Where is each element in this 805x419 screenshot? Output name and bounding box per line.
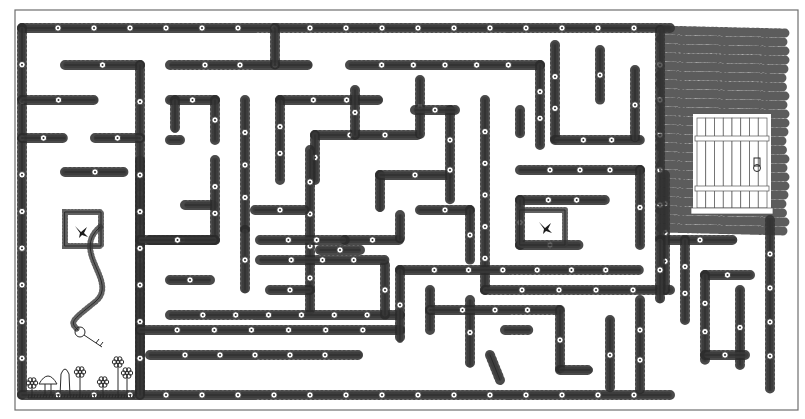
vine-wall xyxy=(637,300,643,390)
vine-wall xyxy=(260,257,385,263)
vine-wall xyxy=(255,207,305,213)
vine-wall xyxy=(260,237,345,243)
vine-wall xyxy=(682,240,688,320)
door-plank xyxy=(732,118,741,208)
vine-wall xyxy=(212,100,218,140)
vine-wall xyxy=(397,270,403,340)
vine-wall xyxy=(95,135,140,141)
goal-box xyxy=(520,210,565,245)
vine-wall xyxy=(415,107,455,113)
vine-wall xyxy=(537,65,543,145)
vine-wall xyxy=(520,167,640,173)
vine-wall xyxy=(767,220,773,390)
vine-wall xyxy=(382,265,388,315)
door-plank xyxy=(706,118,715,208)
vine-wall xyxy=(350,62,540,68)
vine-wall xyxy=(557,310,563,370)
door-step xyxy=(691,208,773,214)
vine-wall xyxy=(140,327,400,333)
vine-wall xyxy=(705,272,750,278)
door-plank xyxy=(723,118,732,208)
vine-wall xyxy=(637,170,643,245)
maze-illustration: Flower Vine Maze xyxy=(0,0,805,419)
vine-wall xyxy=(430,307,560,313)
vine-wall xyxy=(65,62,140,68)
vine-wall xyxy=(555,137,640,143)
vine-wall xyxy=(552,45,558,140)
vine-wall xyxy=(400,267,640,273)
vine-wall xyxy=(467,210,473,260)
door-plank xyxy=(741,118,750,208)
vine-wall xyxy=(665,237,735,243)
vine-wall xyxy=(420,207,470,213)
vine-wall xyxy=(315,132,420,138)
vine-wall xyxy=(482,100,488,290)
door-plank xyxy=(697,118,706,208)
bird-icon xyxy=(539,222,552,234)
vine-wall xyxy=(447,110,453,200)
hanging-vine xyxy=(73,227,102,330)
vine-wall xyxy=(607,320,613,390)
vine-wall xyxy=(242,100,248,230)
vine-wall xyxy=(597,50,603,100)
vine-wall xyxy=(170,312,400,318)
door-brace xyxy=(695,186,769,191)
vine-wall xyxy=(490,355,500,380)
vine-wall xyxy=(280,97,380,103)
vine-wall xyxy=(520,197,605,203)
exit-door[interactable] xyxy=(691,114,773,214)
vine-wall xyxy=(65,169,125,175)
bird-icon xyxy=(75,226,88,238)
vine-wall xyxy=(22,135,65,141)
vine-wall xyxy=(19,28,25,395)
vine-wall xyxy=(485,287,670,293)
vine-wall xyxy=(242,230,248,290)
vine-wall xyxy=(352,90,358,135)
vine-wall xyxy=(380,172,450,178)
door-plank xyxy=(715,118,724,208)
door-brace xyxy=(695,136,769,141)
vine-wall xyxy=(702,275,708,360)
vine-wall xyxy=(705,352,745,358)
vine-wall xyxy=(345,237,400,243)
vine-wall xyxy=(270,287,310,293)
vine-wall xyxy=(277,100,283,180)
vine-wall xyxy=(22,25,670,31)
maze-canvas xyxy=(0,0,805,419)
vine-wall xyxy=(632,70,638,140)
vine-wall xyxy=(140,237,215,243)
vine-wall xyxy=(137,65,143,395)
vine-wall xyxy=(212,160,218,240)
vine-wall xyxy=(22,97,95,103)
vine-wall xyxy=(170,277,210,283)
vine-wall xyxy=(320,247,360,253)
vine-wall xyxy=(657,240,663,300)
vine-wall xyxy=(170,62,310,68)
vine-wall xyxy=(150,352,360,358)
